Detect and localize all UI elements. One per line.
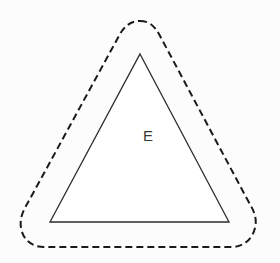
region-label-e: E <box>143 128 153 143</box>
figure-canvas: E <box>0 0 280 263</box>
geometry-figure <box>0 0 280 263</box>
